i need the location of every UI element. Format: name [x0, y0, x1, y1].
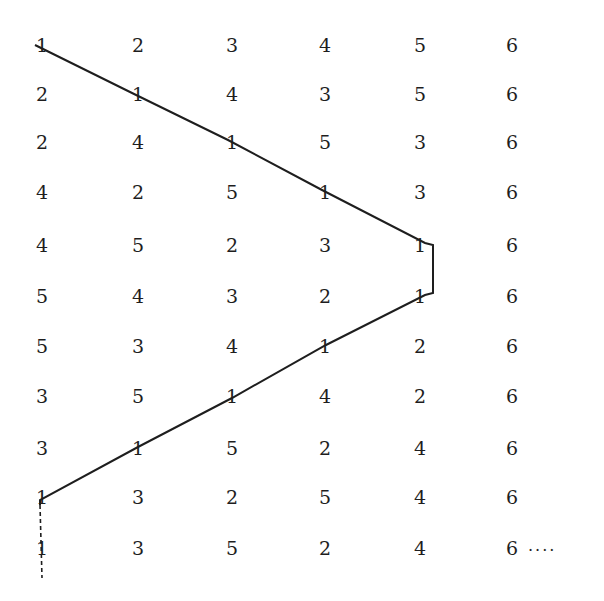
grid-cell: 2 — [408, 336, 432, 356]
grid-cell: 6 — [500, 235, 524, 255]
grid-cell: 1 — [30, 35, 54, 55]
grid-cell: 2 — [30, 132, 54, 152]
grid-cell: 3 — [313, 235, 337, 255]
grid-cell: 4 — [408, 538, 432, 558]
grid-cell: 2 — [220, 235, 244, 255]
grid-cell: 6 — [500, 286, 524, 306]
grid-cell: 5 — [126, 386, 150, 406]
grid-cell: 6 — [500, 438, 524, 458]
grid-cell: 3 — [126, 487, 150, 507]
grid-cell: 5 — [408, 84, 432, 104]
grid-cell: 3 — [408, 132, 432, 152]
grid-cell: 6 — [500, 182, 524, 202]
grid-cell: 1 — [220, 132, 244, 152]
grid-cell: 2 — [313, 438, 337, 458]
grid-cell: 3 — [30, 386, 54, 406]
grid-cell: 5 — [220, 538, 244, 558]
grid-cell: 6 — [500, 336, 524, 356]
grid-cell: 6 — [500, 35, 524, 55]
grid-cell: 5 — [126, 235, 150, 255]
grid-cell: 4 — [220, 336, 244, 356]
grid-cell: 3 — [126, 336, 150, 356]
grid-cell: 3 — [408, 182, 432, 202]
grid-cell: 4 — [126, 132, 150, 152]
grid-cell: 3 — [126, 538, 150, 558]
grid-cell: 6 — [500, 132, 524, 152]
grid-cell: 6 — [500, 487, 524, 507]
grid-cell: 5 — [313, 487, 337, 507]
grid-cell: 1 — [30, 487, 54, 507]
grid-cell: 5 — [220, 182, 244, 202]
grid-cell: 3 — [30, 438, 54, 458]
grid-cell: 4 — [408, 487, 432, 507]
grid-cell: 6 — [500, 386, 524, 406]
grid-cell: 4 — [30, 235, 54, 255]
grid-cell: 3 — [220, 35, 244, 55]
grid-cell: 1 — [313, 182, 337, 202]
grid-cell: 2 — [30, 84, 54, 104]
grid-cell: 1 — [220, 386, 244, 406]
grid-cell: 2 — [220, 487, 244, 507]
continuation-ellipsis: .... — [528, 536, 556, 555]
grid-cell: 5 — [408, 35, 432, 55]
grid-cell: 3 — [220, 286, 244, 306]
grid-cell: 1 — [126, 84, 150, 104]
grid-cell: 5 — [30, 286, 54, 306]
grid-cell: 2 — [313, 286, 337, 306]
grid-cell: 5 — [313, 132, 337, 152]
grid-cell: 2 — [126, 35, 150, 55]
grid-cell: 6 — [500, 538, 524, 558]
grid-cell: 1 — [408, 286, 432, 306]
grid-cell: 6 — [500, 84, 524, 104]
grid-cell: 5 — [220, 438, 244, 458]
grid-cell: 4 — [220, 84, 244, 104]
grid-cell: 2 — [408, 386, 432, 406]
grid-cell: 2 — [313, 538, 337, 558]
grid-cell: 4 — [313, 386, 337, 406]
grid-cell: 1 — [313, 336, 337, 356]
grid-cell: 4 — [408, 438, 432, 458]
grid-cell: 4 — [126, 286, 150, 306]
permutation-grid: 1234562143562415364251364523165432165341… — [0, 0, 604, 601]
grid-cell: 3 — [313, 84, 337, 104]
grid-cell: 2 — [126, 182, 150, 202]
grid-cell: 5 — [30, 336, 54, 356]
grid-cell: 1 — [30, 538, 54, 558]
grid-cell: 1 — [126, 438, 150, 458]
grid-cell: 4 — [30, 182, 54, 202]
grid-cell: 1 — [408, 235, 432, 255]
grid-cell: 4 — [313, 35, 337, 55]
